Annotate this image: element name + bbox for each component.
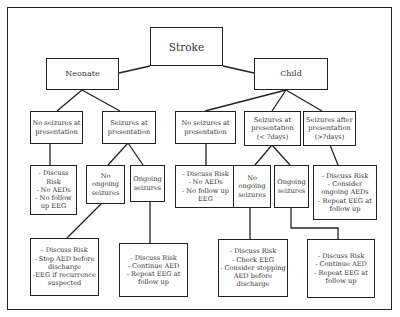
outcome-child-no-seizures: - Discuss Risk - No AEDs - No follow up … [175, 165, 236, 208]
node-neonate-ongoing: Ongoing seizures [130, 165, 165, 202]
node-child-no-ongoing: No ongoing seizures [233, 165, 271, 208]
node-label: No ongoing seizures [238, 174, 266, 199]
node-neonate: Neonate [46, 58, 119, 90]
node-neonate-seizures: Seizures at presentation [102, 111, 156, 144]
outcome-text: - Discuss Risk - Check EEG - Consider st… [220, 247, 285, 288]
node-label: Seizures after presentation (>?days) [306, 116, 353, 141]
node-label: Ongoing seizures [277, 178, 305, 194]
node-child-ongoing: Ongoing seizures [274, 165, 309, 208]
outcome-neonate-ongoing: - Discuss Risk - Continue AED - Repeat E… [119, 243, 188, 297]
node-label: Child [280, 69, 302, 79]
outcome-child-ongoing: - Discuss Risk - Continue AED - Repeat E… [307, 239, 375, 298]
outcome-neonate-no-ongoing: - Discuss Risk - Stop AED before dischar… [30, 238, 99, 296]
outcome-child-seizures-late: - Discuss Risk - Consider ongoing AEDs -… [313, 165, 377, 220]
node-neonate-no-ongoing: No ongoing seizures [86, 165, 125, 204]
node-stroke: Stroke [150, 27, 223, 66]
node-child-seizures-late: Seizures after presentation (>?days) [303, 111, 356, 146]
node-child: Child [254, 58, 328, 90]
node-label: No ongoing seizures [92, 172, 120, 197]
node-neonate-no-seizures: No seizures at presentation [30, 111, 83, 144]
outcome-text: - Discuss Risk - No AEDs - No follow up … [35, 169, 71, 210]
node-label: Stroke [169, 41, 204, 53]
outcome-neonate-no-seizures: - Discuss Risk - No AEDs - No follow up … [30, 165, 77, 215]
outcome-text: - Discuss Risk - No AEDs - No follow up … [182, 170, 229, 203]
node-label: Seizures at presentation (< ?days) [251, 116, 293, 141]
node-child-no-seizures: No seizures at presentation [175, 111, 236, 144]
node-child-seizures-early: Seizures at presentation (< ?days) [244, 111, 301, 146]
outcome-child-no-ongoing: - Discuss Risk - Check EEG - Consider st… [218, 239, 288, 297]
node-label: No seizures at presentation [181, 119, 229, 135]
outcome-text: - Discuss Risk - Continue AED - Repeat E… [314, 252, 368, 285]
node-label: Ongoing seizures [133, 175, 161, 191]
node-label: Seizures at presentation [108, 119, 150, 135]
node-label: No seizures at presentation [32, 119, 80, 135]
node-label: Neonate [65, 69, 99, 79]
outcome-text: - Discuss Risk - Stop AED before dischar… [33, 246, 96, 287]
outcome-text: - Discuss Risk - Continue AED - Repeat E… [127, 254, 181, 287]
outcome-text: - Discuss Risk - Consider ongoing AEDs -… [318, 172, 372, 213]
